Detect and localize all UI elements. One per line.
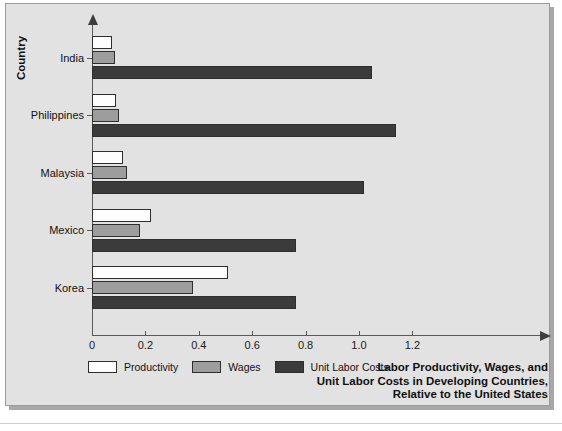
bar-productivity bbox=[92, 266, 228, 279]
chart-figure: Country 00.20.40.60.81.01.2 IndiaPhilipp… bbox=[0, 0, 562, 431]
y-axis-category-label: Malaysia bbox=[0, 167, 84, 179]
bar-ulc bbox=[92, 296, 296, 309]
x-axis-tick-label: 0.2 bbox=[138, 339, 153, 351]
chart-title: Labor Productivity, Wages, andUnit Labor… bbox=[218, 361, 548, 402]
chart-panel bbox=[5, 3, 550, 406]
chart-title-line: Unit Labor Costs in Developing Countries… bbox=[218, 375, 548, 389]
x-axis-line bbox=[92, 335, 542, 336]
panel-shadow-bottom bbox=[9, 406, 554, 410]
legend-swatch-wages bbox=[192, 361, 221, 373]
legend-swatch-productivity bbox=[88, 361, 117, 373]
bar-productivity bbox=[92, 151, 123, 164]
bar-ulc bbox=[92, 181, 364, 194]
x-axis-tick bbox=[92, 331, 93, 336]
x-axis-tick-label: 1.2 bbox=[405, 339, 420, 351]
page-divider bbox=[0, 423, 562, 424]
x-axis-tick bbox=[199, 331, 200, 336]
bar-wages bbox=[92, 166, 127, 179]
legend-item-productivity: Productivity bbox=[88, 361, 178, 373]
bar-ulc bbox=[92, 239, 296, 252]
x-axis-tick-label: 0.8 bbox=[298, 339, 313, 351]
x-axis-tick-label: 1.0 bbox=[351, 339, 366, 351]
y-axis-category-label: Philippines bbox=[0, 109, 84, 121]
bar-ulc bbox=[92, 124, 396, 137]
bar-wages bbox=[92, 281, 193, 294]
bar-productivity bbox=[92, 209, 151, 222]
bar-productivity bbox=[92, 94, 116, 107]
y-axis-category-label: Mexico bbox=[0, 224, 84, 236]
x-axis-tick bbox=[412, 331, 413, 336]
panel-shadow-right bbox=[550, 7, 554, 410]
x-axis-tick bbox=[252, 331, 253, 336]
bar-wages bbox=[92, 51, 115, 64]
x-axis-tick bbox=[145, 331, 146, 336]
y-axis-arrow-icon bbox=[88, 14, 98, 25]
x-axis-arrow-icon bbox=[540, 331, 551, 341]
legend-label: Productivity bbox=[124, 361, 178, 373]
bar-wages bbox=[92, 109, 119, 122]
bar-wages bbox=[92, 224, 140, 237]
chart-title-line: Labor Productivity, Wages, and bbox=[218, 361, 548, 375]
bar-productivity bbox=[92, 36, 112, 49]
y-axis-category-label: India bbox=[0, 52, 84, 64]
bar-ulc bbox=[92, 66, 372, 79]
x-axis-tick bbox=[359, 331, 360, 336]
y-axis-category-label: Korea bbox=[0, 282, 84, 294]
x-axis-tick-label: 0.4 bbox=[191, 339, 206, 351]
x-axis-tick-label: 0 bbox=[89, 339, 95, 351]
x-axis-tick-label: 0.6 bbox=[245, 339, 260, 351]
x-axis-tick bbox=[306, 331, 307, 336]
chart-title-line: Relative to the United States bbox=[218, 388, 548, 402]
